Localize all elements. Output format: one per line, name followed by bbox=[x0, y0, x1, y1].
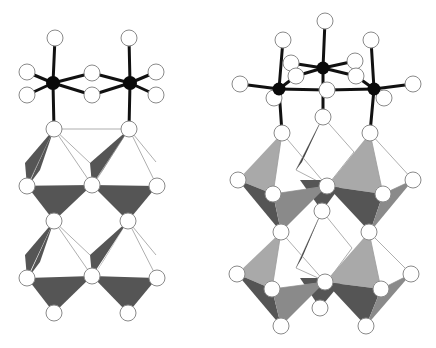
left-polyhedra-row-2 bbox=[25, 221, 157, 313]
left-polyhedra-row-1 bbox=[25, 129, 157, 221]
structure-figure bbox=[0, 0, 436, 348]
left-panel bbox=[19, 30, 165, 321]
right-panel bbox=[229, 13, 421, 334]
